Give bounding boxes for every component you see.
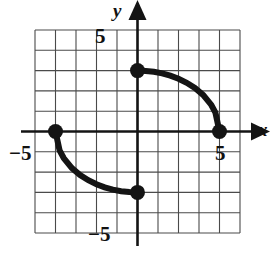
coordinate-plane — [0, 0, 276, 259]
x-axis-tick-label-5: 5 — [215, 143, 226, 164]
y-axis-label: y — [113, 1, 121, 20]
x-axis-tick-label-minus5: −5 — [9, 143, 31, 164]
y-axis-tick-label-minus5: −5 — [88, 224, 110, 245]
x-axis-label: x — [258, 120, 268, 139]
y-axis-tick-label-5: 5 — [95, 26, 106, 47]
graph-figure: y x 5 −5 5 −5 — [0, 0, 276, 259]
